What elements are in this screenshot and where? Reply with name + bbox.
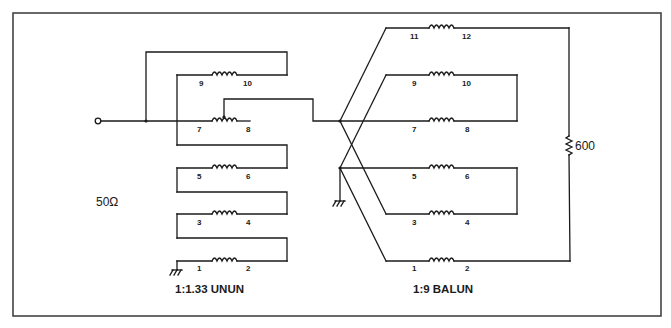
inductor-icon xyxy=(429,258,454,261)
junction-dot-icon xyxy=(222,115,225,118)
pin-label: 1 xyxy=(412,264,417,273)
ground-icon xyxy=(333,201,345,206)
inductor-icon xyxy=(212,165,237,168)
pin-label: 6 xyxy=(465,172,470,181)
balun-transformer: 11 12 9 10 7 8 5 6 3 4 1 2 600 1:9 BALUN xyxy=(333,25,595,295)
pin-label: 2 xyxy=(465,264,470,273)
pin-label: 7 xyxy=(197,125,202,134)
pin-label: 2 xyxy=(246,264,251,273)
pin-label: 8 xyxy=(246,125,251,134)
inductor-icon xyxy=(429,72,454,75)
pin-label: 6 xyxy=(246,172,251,181)
ground-icon xyxy=(170,270,182,275)
load-resistor-label: 600 xyxy=(575,139,595,153)
pin-label: 4 xyxy=(465,218,470,227)
inductor-icon xyxy=(429,118,454,121)
pin-label: 9 xyxy=(412,79,417,88)
inductor-icon xyxy=(429,25,454,28)
inductor-icon xyxy=(212,72,237,75)
circuit-diagram: 9 10 7 8 5 6 3 4 1 2 50Ω 1:1.33 UNUN xyxy=(0,0,671,328)
unun-transformer: 9 10 7 8 5 6 3 4 1 2 50Ω 1:1.33 UNUN xyxy=(95,52,340,295)
pin-label: 8 xyxy=(465,125,470,134)
unun-title: 1:1.33 UNUN xyxy=(175,283,244,295)
inductor-icon xyxy=(429,165,454,168)
inductor-icon xyxy=(212,258,237,261)
pin-label: 1 xyxy=(197,264,202,273)
pin-label: 7 xyxy=(412,125,417,134)
pin-label: 9 xyxy=(199,79,204,88)
pin-label: 3 xyxy=(412,218,417,227)
resistor-icon xyxy=(566,136,572,155)
inductor-icon xyxy=(212,211,237,214)
inductor-icon xyxy=(429,211,454,214)
pin-label: 3 xyxy=(197,218,202,227)
pin-label: 4 xyxy=(246,218,251,227)
pin-label: 10 xyxy=(462,79,471,88)
impedance-label: 50Ω xyxy=(96,195,118,209)
figure-frame xyxy=(13,13,661,316)
pin-label: 5 xyxy=(197,172,202,181)
pin-label: 11 xyxy=(410,32,419,41)
input-terminal-icon xyxy=(95,118,101,124)
pin-label: 5 xyxy=(412,172,417,181)
pin-label: 10 xyxy=(243,79,252,88)
balun-title: 1:9 BALUN xyxy=(413,283,473,295)
pin-label: 12 xyxy=(462,32,471,41)
